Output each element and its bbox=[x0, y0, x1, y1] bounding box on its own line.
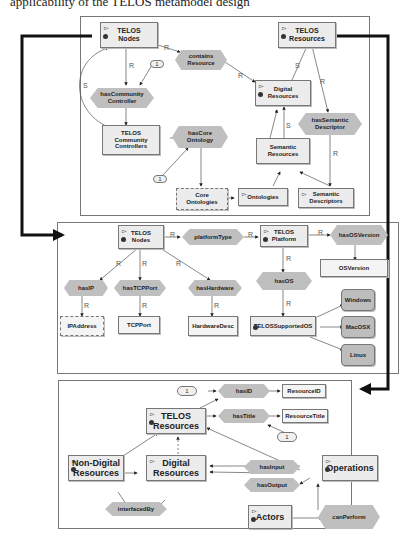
node-telos-resources[interactable]: ▻ TELOS Resources bbox=[278, 22, 336, 48]
node-ontologies[interactable]: ▻ Ontologies bbox=[238, 188, 288, 206]
relation-has-community-controller[interactable]: hasCommunity Controller bbox=[90, 88, 154, 108]
edge-label: R bbox=[129, 62, 134, 69]
node-resource-title[interactable]: ResourceTitle bbox=[282, 409, 328, 423]
relation-has-hardware[interactable]: hasHardware bbox=[188, 280, 242, 296]
node-type-icon: ▻ bbox=[149, 411, 155, 425]
node-macosx[interactable]: MacOSX bbox=[341, 316, 375, 338]
node-telos-resources-bottom[interactable]: ▻ TELOS Resources bbox=[146, 408, 206, 434]
edge-label: R bbox=[333, 150, 338, 157]
cardinality-badge: 1 bbox=[177, 386, 197, 396]
relation-has-tcp-port[interactable]: hasTCPPort bbox=[114, 280, 166, 296]
relation-contains-resource[interactable]: contains Resource bbox=[175, 50, 227, 70]
relation-has-id[interactable]: hasID bbox=[218, 384, 270, 398]
node-telos-platform[interactable]: ▻ TELOS Platform bbox=[260, 225, 308, 247]
edge-label: S bbox=[295, 62, 300, 69]
node-telos-supported-os[interactable]: TELOSSupportedOS bbox=[250, 316, 316, 336]
edge-label: R bbox=[320, 78, 325, 85]
node-type-icon: ▻ bbox=[251, 508, 257, 522]
node-telos-nodes[interactable]: ▻ TELOS Nodes bbox=[100, 22, 158, 48]
relation-has-ip[interactable]: hasIP bbox=[64, 280, 108, 296]
edge-label: R bbox=[164, 44, 169, 51]
relation-has-os[interactable]: hasOS bbox=[256, 272, 312, 290]
cardinality-badge: 1 bbox=[150, 60, 164, 68]
node-operations[interactable]: ▻ Operations bbox=[322, 455, 378, 481]
node-type-icon: ▻ bbox=[258, 83, 264, 97]
relation-interfaced-by[interactable]: interfacedBy bbox=[105, 502, 167, 516]
relation-has-os-version[interactable]: hasOSVersion bbox=[330, 225, 388, 245]
node-digital-resources[interactable]: ▻ Digital Resources bbox=[255, 80, 311, 106]
node-type-icon: ▻ bbox=[149, 458, 155, 464]
node-semantic-descriptors[interactable]: ▻ Semantic Descriptors bbox=[298, 188, 354, 208]
node-type-icon: ▻ bbox=[121, 228, 127, 242]
cardinality-badge: 1 bbox=[277, 432, 297, 442]
edge-label: R bbox=[238, 72, 243, 79]
node-ip-address[interactable]: IPAddress bbox=[60, 316, 104, 336]
node-resource-id[interactable]: ResourceID bbox=[282, 384, 326, 398]
relation-has-input[interactable]: hasInput bbox=[244, 460, 300, 474]
edge-label: R bbox=[142, 302, 147, 309]
edge-label: R bbox=[176, 260, 181, 267]
edge-label: R bbox=[286, 300, 291, 307]
edge-label: R bbox=[248, 231, 253, 238]
node-actors[interactable]: ▻ Actors bbox=[248, 505, 292, 529]
node-os-version[interactable]: OSVersion bbox=[320, 259, 388, 277]
node-core-ontologies[interactable]: Core Ontologies bbox=[176, 188, 228, 210]
edge-label: R bbox=[116, 260, 121, 267]
edge-label: R bbox=[286, 255, 291, 262]
node-linux[interactable]: Linux bbox=[341, 344, 375, 366]
relation-can-perform[interactable]: canPerform bbox=[318, 505, 380, 529]
node-type-icon: ▻ bbox=[301, 191, 307, 197]
relation-has-semantic-descriptor[interactable]: hasSemantic Descriptor bbox=[298, 113, 362, 135]
node-telos-nodes-middle[interactable]: ▻ TELOS Nodes bbox=[118, 225, 164, 249]
node-type-icon: ▻ bbox=[263, 228, 269, 242]
edge-label: R bbox=[84, 302, 89, 309]
node-tcp-port[interactable]: TCPPort bbox=[118, 316, 160, 334]
relation-has-core-ontology[interactable]: hasCore Ontology bbox=[172, 126, 228, 148]
relation-has-title[interactable]: hasTitle bbox=[218, 409, 270, 423]
edge-label: R bbox=[170, 231, 175, 238]
relation-platform-type[interactable]: platformType bbox=[182, 229, 244, 245]
edge-label: S bbox=[286, 122, 291, 129]
node-semantic-resources[interactable]: Semantic Resources bbox=[256, 138, 310, 164]
cardinality-badge: 1 bbox=[153, 175, 167, 183]
node-type-icon: ▻ bbox=[325, 458, 331, 472]
node-type-icon: ▻ bbox=[281, 25, 287, 39]
edge-label: R bbox=[142, 260, 147, 267]
node-windows[interactable]: Windows bbox=[341, 289, 375, 311]
relation-has-output[interactable]: hasOutput bbox=[244, 478, 300, 492]
node-non-digital-resources[interactable]: ▻ Non-Digital Resources bbox=[68, 455, 124, 481]
node-type-icon bbox=[253, 319, 259, 330]
edge-label: S bbox=[83, 82, 88, 89]
edge-label: R bbox=[318, 229, 323, 236]
node-type-icon: ▻ bbox=[241, 191, 247, 197]
node-type-icon: ▻ bbox=[103, 25, 109, 39]
edge-label: R bbox=[214, 302, 219, 309]
node-telos-community-controllers[interactable]: TELOS Community Controllers bbox=[102, 125, 160, 155]
node-digital-resources-bottom[interactable]: ▻ Digital Resources bbox=[146, 455, 206, 481]
node-type-icon: ▻ bbox=[71, 458, 77, 472]
node-hardware-desc[interactable]: HardwareDesc bbox=[188, 316, 238, 336]
